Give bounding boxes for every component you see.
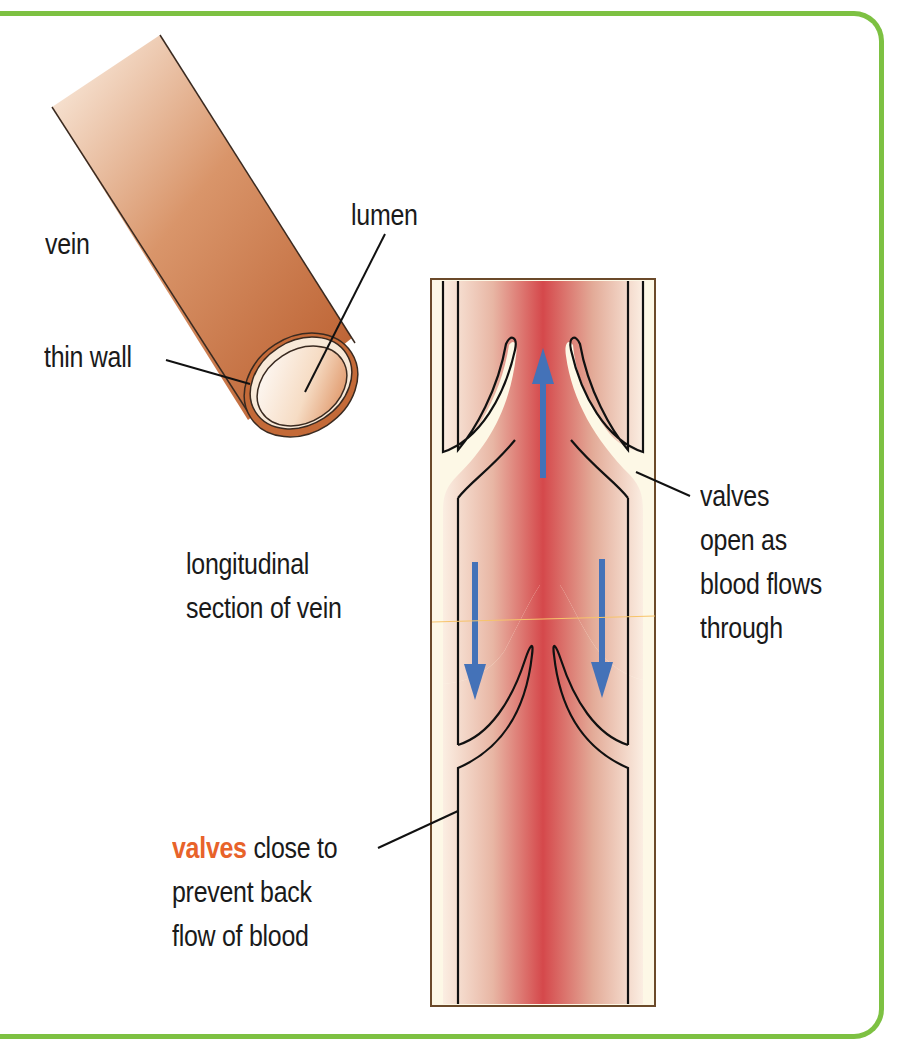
- valves-highlight: valves: [172, 832, 247, 864]
- label-lumen: lumen: [351, 197, 418, 234]
- valves-close-rest: close to: [247, 832, 338, 864]
- label-valves-close-line3: flow of blood: [172, 918, 309, 955]
- label-valves-open-line4: through: [700, 610, 783, 647]
- vein-tube: [52, 35, 377, 458]
- label-thin-wall: thin wall: [44, 339, 132, 376]
- label-longitudinal-line1: longitudinal: [186, 546, 309, 583]
- label-valves-close-line1: valves close to: [172, 830, 337, 867]
- label-vein: vein: [45, 226, 90, 263]
- label-longitudinal-line2: section of vein: [186, 590, 342, 627]
- label-valves-open-line3: blood flows: [700, 566, 822, 603]
- label-valves-close-line2: prevent back: [172, 874, 312, 911]
- label-valves-open-line1: valves: [700, 478, 769, 515]
- label-valves-open-line2: open as: [700, 522, 787, 559]
